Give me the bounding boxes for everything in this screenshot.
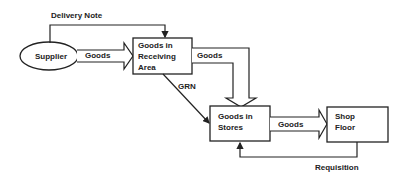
requisition-arrow	[240, 142, 357, 157]
diagram-lines	[0, 0, 405, 176]
goods-label-supplier: Goods	[85, 51, 110, 61]
delivery-note-label: Delivery Note	[51, 11, 102, 21]
flow-diagram: Supplier Goods in Receiving Area Goods i…	[0, 0, 405, 176]
goods-label-stores: Goods	[278, 120, 303, 130]
grn-label: GRN	[178, 82, 196, 92]
receiving-label: Goods in Receiving Area	[138, 40, 176, 73]
requisition-label: Requisition	[315, 163, 359, 173]
stores-label: Goods in Stores	[218, 111, 253, 133]
goods-label-receiving: Goods	[197, 51, 222, 61]
shop-label: Shop Floor	[335, 111, 355, 133]
supplier-label: Supplier	[35, 51, 67, 62]
